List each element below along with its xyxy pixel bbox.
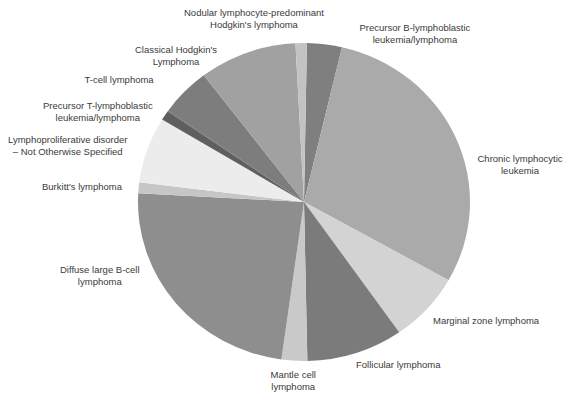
slice-label: Diffuse large B-celllymphoma bbox=[60, 264, 140, 288]
slice-label: Nodular lymphocyte-predominantHodgkin's … bbox=[184, 7, 324, 31]
slice-label-line: Follicular lymphoma bbox=[356, 359, 440, 371]
slice-label: Chronic lymphocyticleukemia bbox=[478, 153, 563, 177]
slice-label-line: Hodgkin's lymphoma bbox=[184, 19, 324, 31]
slice-label-line: T-cell lymphoma bbox=[85, 74, 154, 86]
slice-label-line: Precursor B-lymphoblastic bbox=[360, 22, 471, 34]
slice-label-line: Diffuse large B-cell bbox=[60, 264, 140, 276]
slice-label: Follicular lymphoma bbox=[356, 359, 440, 371]
slice-label-line: – Not Otherwise Specified bbox=[8, 146, 128, 158]
slice-label: Marginal zone lymphoma bbox=[433, 315, 539, 327]
slice-label: Burkitt's lymphoma bbox=[42, 181, 122, 193]
slice-label-line: Classical Hodgkin's bbox=[135, 44, 217, 56]
slice-label: Classical Hodgkin'sLymphoma bbox=[135, 44, 217, 68]
slice-label-line: leukemia/lymphoma bbox=[360, 34, 471, 46]
pie-slices: Precursor B-lymphoblastic leukemia/lymph… bbox=[138, 43, 470, 361]
slice-label-line: Lymphoproliferative disorder bbox=[8, 134, 128, 146]
slice-label-line: Precursor T-lymphoblastic bbox=[43, 100, 153, 112]
slice-label: Precursor B-lymphoblasticleukemia/lympho… bbox=[360, 22, 471, 46]
slice-label-line: Marginal zone lymphoma bbox=[433, 315, 539, 327]
slice-label-line: Nodular lymphocyte-predominant bbox=[184, 7, 324, 19]
slice-label-line: Chronic lymphocytic bbox=[478, 153, 563, 165]
slice-label-line: lymphoma bbox=[60, 276, 140, 288]
slice-label: Lymphoproliferative disorder– Not Otherw… bbox=[8, 134, 128, 158]
slice-label-line: leukemia/lymphoma bbox=[43, 112, 153, 124]
slice-label-line: lymphoma bbox=[271, 381, 316, 393]
pie-slice: Diffuse large B-cell lymphoma bbox=[138, 193, 304, 359]
slice-label-line: leukemia bbox=[478, 165, 563, 177]
pie-chart: Precursor B-lymphoblastic leukemia/lymph… bbox=[0, 0, 572, 402]
slice-label-line: Burkitt's lymphoma bbox=[42, 181, 122, 193]
slice-label: T-cell lymphoma bbox=[85, 74, 154, 86]
slice-label-line: Mantle cell bbox=[271, 369, 316, 381]
slice-label-line: Lymphoma bbox=[135, 56, 217, 68]
slice-label: Mantle celllymphoma bbox=[271, 369, 316, 393]
slice-label: Precursor T-lymphoblasticleukemia/lympho… bbox=[43, 100, 153, 124]
